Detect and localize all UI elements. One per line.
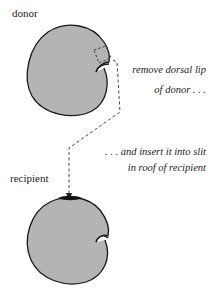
recipient-embryo xyxy=(27,196,108,284)
donor-embryo xyxy=(27,25,109,115)
step2-caption-line2: in roof of recipient xyxy=(128,162,206,173)
step2-caption-line1: . . . and insert it into slit xyxy=(105,146,206,157)
step1-caption-line1: remove dorsal lip xyxy=(132,64,206,75)
recipient-label: recipient xyxy=(10,172,48,184)
donor-label: donor xyxy=(12,7,38,19)
step1-caption-line2: of donor . . . xyxy=(154,84,206,95)
